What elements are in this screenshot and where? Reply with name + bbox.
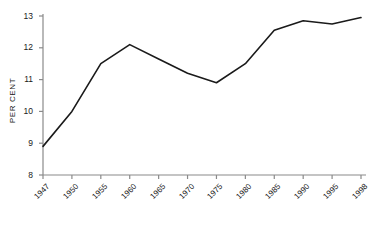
chart-canvas — [0, 0, 376, 227]
x-axis-ticks — [43, 175, 361, 179]
axis-lines — [43, 14, 366, 175]
data-series-line — [43, 18, 361, 147]
line-chart: PER CENT 1312111098 19471950195519601965… — [0, 0, 376, 227]
